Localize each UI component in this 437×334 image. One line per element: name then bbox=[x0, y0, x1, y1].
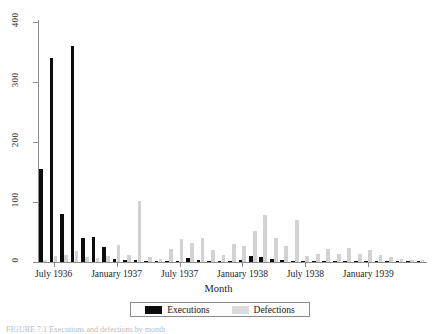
bar-executions-1936-07 bbox=[50, 58, 54, 262]
bar-defections-1937-10 bbox=[211, 250, 215, 262]
bar-defections-1937-09 bbox=[201, 238, 205, 262]
bar-defections-1936-07 bbox=[54, 256, 58, 262]
bar-defections-1938-02 bbox=[253, 231, 257, 262]
bar-defections-1937-02 bbox=[127, 255, 131, 262]
bar-executions-1936-09 bbox=[71, 46, 75, 262]
x-tick-1939-01 bbox=[368, 262, 369, 267]
bar-defections-1936-12 bbox=[106, 256, 110, 262]
legend-swatch-executions bbox=[145, 306, 162, 314]
x-tick-1936-07 bbox=[54, 262, 55, 267]
bar-defections-1939-04 bbox=[400, 259, 404, 262]
bar-defections-1938-11 bbox=[347, 248, 351, 262]
bar-defections-1936-10 bbox=[85, 257, 89, 262]
bar-defections-1937-07 bbox=[180, 239, 184, 262]
bar-defections-1938-01 bbox=[242, 246, 246, 262]
bar-defections-1937-12 bbox=[232, 244, 236, 262]
bar-defections-1936-08 bbox=[64, 255, 68, 262]
bars-layer bbox=[38, 22, 426, 262]
plot-area bbox=[38, 22, 426, 262]
bar-defections-1939-06 bbox=[421, 260, 425, 262]
bar-defections-1939-02 bbox=[379, 255, 383, 262]
bar-defections-1937-06 bbox=[169, 249, 173, 262]
y-tick-label-200: 200 bbox=[10, 125, 20, 155]
figure-container: 0100200300400 July 1936January 1937July … bbox=[0, 0, 437, 334]
bar-defections-1939-01 bbox=[368, 250, 372, 262]
bar-defections-1937-01 bbox=[117, 245, 121, 262]
legend-swatch-defections bbox=[232, 306, 249, 314]
bar-defections-1938-06 bbox=[295, 220, 299, 262]
bar-defections-1936-09 bbox=[75, 251, 79, 262]
bar-defections-1936-06 bbox=[43, 260, 47, 262]
bar-defections-1937-11 bbox=[222, 255, 226, 262]
bar-defections-1938-09 bbox=[326, 249, 330, 262]
bar-defections-1939-03 bbox=[389, 257, 393, 262]
x-axis-title: Month bbox=[0, 283, 437, 294]
bar-defections-1938-05 bbox=[284, 246, 288, 262]
chart-legend: Executions Defections bbox=[130, 302, 310, 317]
bar-executions-1936-06 bbox=[39, 169, 43, 262]
y-tick-label-100: 100 bbox=[10, 185, 20, 215]
y-tick-label-400: 400 bbox=[10, 5, 20, 35]
x-tick-label-1939-01: January 1939 bbox=[323, 269, 413, 279]
bar-defections-1939-05 bbox=[410, 260, 414, 262]
x-tick-1938-01 bbox=[242, 262, 243, 267]
bar-defections-1938-12 bbox=[358, 254, 362, 262]
y-tick-label-300: 300 bbox=[10, 65, 20, 95]
x-tick-1938-07 bbox=[305, 262, 306, 267]
bar-defections-1937-05 bbox=[159, 259, 163, 262]
bar-defections-1937-03 bbox=[138, 201, 142, 262]
bar-defections-1938-03 bbox=[263, 215, 267, 262]
bar-defections-1937-04 bbox=[148, 257, 152, 262]
legend-item-executions: Executions bbox=[145, 305, 209, 315]
y-tick-0 bbox=[33, 262, 38, 263]
legend-label-defections: Defections bbox=[254, 305, 295, 315]
x-tick-1937-01 bbox=[117, 262, 118, 267]
bar-defections-1938-04 bbox=[274, 238, 278, 262]
figure-caption-text: FIGURE 7.1 Executions and defections by … bbox=[6, 325, 306, 334]
legend-label-executions: Executions bbox=[167, 305, 209, 315]
bar-defections-1938-10 bbox=[337, 254, 341, 262]
figure-caption-cutoff: FIGURE 7.1 Executions and defections by … bbox=[6, 325, 306, 334]
bar-defections-1936-11 bbox=[96, 258, 100, 262]
legend-item-defections: Defections bbox=[232, 305, 295, 315]
bar-defections-1937-08 bbox=[190, 243, 194, 262]
bar-defections-1938-08 bbox=[316, 254, 320, 262]
x-tick-1937-07 bbox=[180, 262, 181, 267]
bar-defections-1938-07 bbox=[305, 256, 309, 262]
